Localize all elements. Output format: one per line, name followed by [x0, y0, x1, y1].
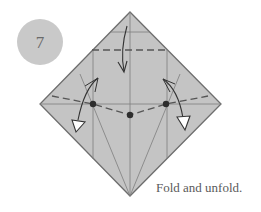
- step-number: 7: [36, 34, 45, 51]
- origami-step-diagram: 7 Fold and unfold.: [0, 0, 261, 212]
- instruction-caption: Fold and unfold.: [156, 180, 242, 196]
- step-number-badge: 7: [17, 19, 63, 65]
- left-dot: [90, 101, 96, 107]
- center-dot: [127, 112, 133, 118]
- right-dot: [163, 101, 169, 107]
